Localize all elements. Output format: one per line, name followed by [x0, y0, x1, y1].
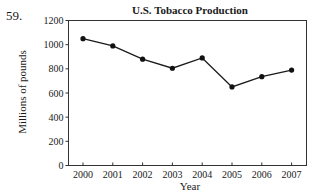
y-tick-label: 1000 — [44, 39, 64, 50]
data-point — [80, 36, 85, 41]
y-tick-label: 0 — [59, 160, 64, 171]
data-point — [140, 57, 145, 62]
x-tick-label: 2005 — [222, 169, 242, 180]
y-axis: 020040060080010001200 — [44, 15, 69, 171]
y-tick-label: 400 — [49, 112, 64, 123]
plot-frame — [69, 21, 307, 166]
y-tick-label: 1200 — [44, 15, 64, 26]
data-point — [110, 43, 115, 48]
x-tick-label: 2004 — [192, 169, 212, 180]
data-point — [229, 84, 234, 89]
data-point — [200, 55, 205, 60]
data-point — [259, 74, 264, 79]
x-tick-label: 2007 — [282, 169, 302, 180]
x-tick-label: 2002 — [133, 169, 153, 180]
x-tick-label: 2003 — [162, 169, 182, 180]
x-tick-label: 2006 — [252, 169, 272, 180]
line-chart: 020040060080010001200 200020012002200320… — [0, 0, 312, 195]
y-tick-label: 800 — [49, 63, 64, 74]
data-point — [170, 66, 175, 71]
x-tick-label: 2001 — [103, 169, 123, 180]
y-tick-label: 600 — [49, 88, 64, 99]
x-tick-label: 2000 — [73, 169, 93, 180]
data-point — [289, 67, 294, 72]
y-tick-label: 200 — [49, 136, 64, 147]
